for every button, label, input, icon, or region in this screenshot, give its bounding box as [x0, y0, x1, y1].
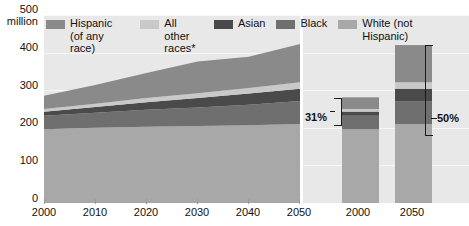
- legend-item-black: Black: [276, 17, 327, 30]
- legend-item-white-not-hispanic: White (not Hispanic): [338, 17, 458, 42]
- x-tick-2020: 2020: [134, 206, 158, 218]
- x-tick-bar-2000: 2000: [346, 206, 370, 218]
- x-tick-2040: 2040: [236, 206, 260, 218]
- legend-label-all-other-races: All other races*: [164, 17, 203, 55]
- x-tick-2000: 2000: [32, 206, 56, 218]
- legend-label-black: Black: [300, 17, 327, 30]
- legend-swatch-white-icon: [338, 20, 357, 29]
- y-tick-300: 300: [20, 80, 38, 91]
- legend-item-all-other-races: All other races*: [140, 17, 203, 55]
- y-axis: 500 million 400 300 200 100 0: [0, 0, 44, 226]
- bar-segment-2000-all-other-races: [342, 109, 379, 112]
- y-tick-500: 500 million: [7, 4, 38, 27]
- y-tick-400: 400: [20, 42, 38, 53]
- legend-item-hispanic: Hispanic (of any race): [46, 17, 129, 55]
- annotation-bracket-50: [425, 45, 433, 136]
- x-tick-2050: 2050: [287, 206, 311, 218]
- x-mark-2020: [146, 199, 147, 204]
- legend-swatch-black-icon: [276, 20, 295, 29]
- legend-swatch-asian-icon: [214, 20, 233, 29]
- x-tick-2010: 2010: [83, 206, 107, 218]
- annotation-bracket-31: [334, 98, 342, 126]
- legend-label-white-not-hispanic: White (not Hispanic): [362, 17, 458, 42]
- x-mark-2010: [95, 199, 96, 204]
- y-tick-200: 200: [20, 117, 38, 128]
- annotation-31-percent: 31%: [305, 111, 327, 123]
- x-tick-2030: 2030: [185, 206, 209, 218]
- x-mark-2030: [197, 199, 198, 204]
- x-mark-2000: [44, 199, 45, 204]
- area-band-white-not-hispanic: [44, 124, 300, 203]
- annotation-bracket-stem-50: [431, 118, 437, 119]
- y-tick-500-value: 500: [20, 3, 38, 15]
- bar-segment-2000-black: [342, 116, 379, 130]
- x-mark-2040: [248, 199, 249, 204]
- legend-item-asian: Asian: [214, 17, 266, 30]
- legend-label-hispanic: Hispanic (of any race): [70, 17, 129, 55]
- bar-segment-2000-hispanic-of-any-race: [342, 97, 379, 109]
- y-tick-100: 100: [20, 155, 38, 166]
- legend-swatch-all-other-races-icon: [140, 20, 159, 29]
- y-axis-unit-label: million: [7, 15, 38, 27]
- x-mark-2050: [299, 199, 300, 204]
- x-tick-bar-2050: 2050: [400, 206, 424, 218]
- annotation-bracket-stem-31: [330, 111, 335, 112]
- annotation-50-percent: 50%: [437, 112, 459, 124]
- legend: Hispanic (of any race) All other races* …: [46, 17, 469, 55]
- y-tick-0: 0: [32, 193, 38, 204]
- legend-swatch-hispanic-icon: [46, 20, 65, 29]
- population-projection-chart: 500 million 400 300 200 100 0 Hispanic (…: [0, 0, 469, 226]
- bar-segment-2000-asian: [342, 112, 379, 116]
- bar-segment-2000-white-not-hispanic: [342, 129, 379, 203]
- legend-label-asian: Asian: [238, 17, 266, 30]
